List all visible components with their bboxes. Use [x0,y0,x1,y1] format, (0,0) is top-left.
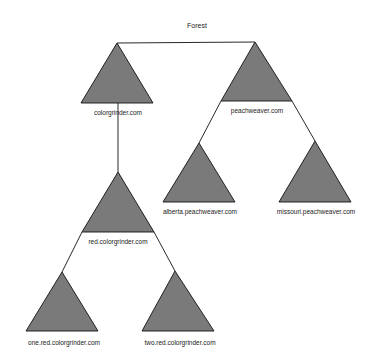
colorgrinder-label: colorgrinder.com [94,109,142,116]
peachweaver-to-missouri-connector [292,101,315,141]
colorgrinder-domain-triangle [81,43,153,103]
red-to-two-connector [154,232,175,271]
red-domain-triangle [82,172,154,232]
alberta-peachweaver-label: alberta.peachweaver.com [163,208,237,215]
one-domain-triangle [26,272,98,331]
forest-title: Forest [187,22,207,29]
one-red-colorgrinder-label: one.red.colorgrinder.com [28,339,100,346]
peachweaver-to-alberta-connector [199,101,221,143]
red-colorgrinder-label: red.colorgrinder.com [88,238,147,245]
alberta-domain-triangle [163,143,235,202]
peachweaver-label: peachweaver.com [231,107,283,114]
two-red-colorgrinder-label: two.red.colorgrinder.com [144,339,215,346]
missouri-peachweaver-label: missouri.peachweaver.com [277,208,355,215]
forest-root-connector [117,42,255,43]
red-to-one-connector [62,232,82,272]
two-domain-triangle [142,271,214,331]
missouri-domain-triangle [279,141,351,202]
peachweaver-domain-triangle [221,42,292,101]
forest-diagram [0,0,390,364]
